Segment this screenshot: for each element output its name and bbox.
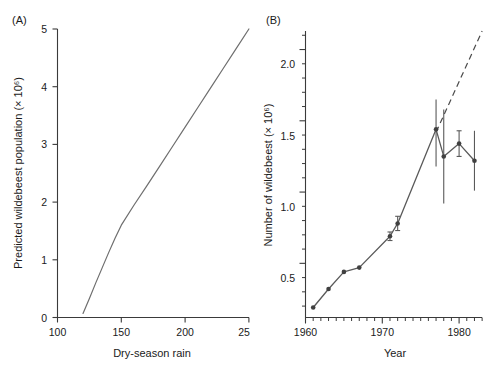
panel-b-x-axis-title: Year	[384, 347, 407, 359]
panel-b-xtick-1980: 1980	[447, 326, 471, 338]
panel-a-xtick-150: 150	[113, 326, 131, 338]
panel-a-y-ticks	[53, 29, 58, 318]
panel-b: (B) 0.5 1.0 1.5 2.0 1960 1970 1980	[250, 0, 490, 373]
panel-b-tag: (B)	[266, 14, 281, 26]
figure-wildebeest-panels: (A) 0 1 2 3 4 5	[0, 0, 490, 373]
panel-b-ytick-1_5: 1.5	[280, 130, 295, 142]
data-point	[311, 305, 316, 310]
data-point	[357, 265, 362, 270]
panel-b-error-bars	[387, 99, 474, 240]
panel-b-projection-line	[436, 31, 482, 132]
panel-b-xtick-1970: 1970	[371, 326, 395, 338]
data-point	[342, 270, 347, 275]
panel-b-ytick-1_0: 1.0	[280, 201, 295, 213]
panel-b-y-tick-labels: 0.5 1.0 1.5 2.0	[280, 58, 295, 284]
data-point	[457, 141, 462, 146]
panel-a-xtick-100: 100	[49, 326, 67, 338]
panel-a-data-curve	[83, 29, 249, 313]
data-point	[326, 287, 331, 292]
panel-a-xtick-200: 200	[176, 326, 194, 338]
panel-b-y-axis-title: Number of wildebeest (× 10⁶)	[262, 103, 274, 246]
panel-b-x-ticks	[306, 318, 483, 324]
data-point	[441, 154, 446, 159]
data-point	[472, 158, 477, 163]
panel-a-y-axis-title: Predicted wildebeest population (× 10⁶)	[12, 77, 24, 269]
panel-b-data-markers	[311, 127, 477, 310]
panel-a-ytick-0: 0	[41, 312, 47, 324]
panel-a-ytick-4: 4	[41, 81, 47, 93]
panel-a-y-tick-labels: 0 1 2 3 4 5	[41, 23, 47, 324]
panel-a-x-axis-title: Dry-season rain	[113, 347, 191, 359]
panel-a-x-ticks	[58, 318, 249, 323]
panel-a: (A) 0 1 2 3 4 5	[0, 0, 250, 373]
panel-a-x-tick-labels: 100 150 200 250	[49, 326, 250, 338]
panel-b-axes	[306, 31, 483, 318]
data-point	[395, 221, 400, 226]
panel-b-x-tick-labels: 1960 1970 1980	[294, 326, 471, 338]
panel-a-ytick-5: 5	[41, 23, 47, 35]
panel-b-series-line	[313, 129, 474, 307]
panel-a-xtick-250: 250	[238, 326, 250, 338]
panel-b-y-ticks	[300, 35, 306, 306]
panel-a-ytick-1: 1	[41, 254, 47, 266]
panel-b-xtick-1960: 1960	[294, 326, 318, 338]
panel-b-plot: (B) 0.5 1.0 1.5 2.0 1960 1970 1980	[250, 0, 490, 373]
panel-a-tag: (A)	[12, 14, 27, 26]
panel-a-ytick-2: 2	[41, 196, 47, 208]
data-point	[388, 234, 393, 239]
panel-a-ytick-3: 3	[41, 138, 47, 150]
panel-b-ytick-2_0: 2.0	[280, 58, 295, 70]
panel-a-plot: (A) 0 1 2 3 4 5	[0, 0, 250, 373]
panel-b-ytick-0_5: 0.5	[280, 272, 295, 284]
data-point	[434, 127, 439, 132]
